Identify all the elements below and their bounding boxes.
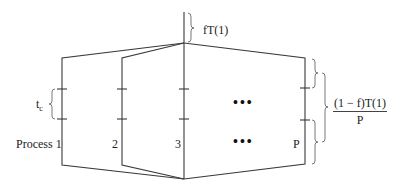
process-1-label: Process 1 — [16, 138, 62, 150]
task-time-label: tc — [36, 98, 43, 113]
right-lower-brace — [312, 120, 318, 164]
process-p-label: P — [293, 138, 300, 150]
parallel-process-diagram: fT(1) tc (1 − f)T(1) P Process 1 2 3 P •… — [0, 0, 408, 192]
process-2-label: 2 — [112, 138, 118, 150]
process-2-path — [122, 43, 184, 179]
parallel-time-numerator: (1 − f)T(1) — [333, 97, 387, 112]
process-1-path — [62, 43, 184, 179]
ellipsis-lower: ••• — [233, 135, 254, 149]
parallel-time-fraction: (1 − f)T(1) P — [333, 97, 387, 126]
serial-time-brace — [188, 13, 194, 42]
process-3-label: 3 — [175, 138, 181, 150]
task-time-brace — [49, 89, 55, 119]
parallel-time-denominator: P — [333, 112, 387, 126]
serial-time-label: fT(1) — [203, 24, 228, 36]
right-upper-brace — [312, 59, 318, 88]
parallel-time-brace — [322, 73, 328, 142]
ellipsis-upper: ••• — [233, 96, 254, 110]
process-p-path — [184, 43, 305, 179]
